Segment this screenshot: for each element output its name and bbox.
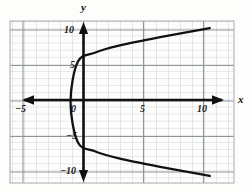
y-tick-label-5: 5 [70, 59, 75, 70]
y-tick-label-neg5: −5 [66, 130, 77, 141]
y-tick-label-10: 10 [64, 24, 74, 35]
y-axis-label: y [81, 1, 86, 13]
x-tick-label-5: 5 [140, 103, 145, 114]
x-axis-label: x [238, 93, 244, 105]
x-tick-label-0: 0 [71, 103, 76, 114]
x-tick-label-10: 10 [197, 103, 207, 114]
y-tick-label-neg10: −10 [60, 165, 76, 176]
graph-figure: x y −5 0 5 10 10 5 −5 −10 [0, 0, 250, 193]
coordinate-plane [0, 0, 250, 193]
x-tick-label-neg5: −5 [15, 103, 26, 114]
